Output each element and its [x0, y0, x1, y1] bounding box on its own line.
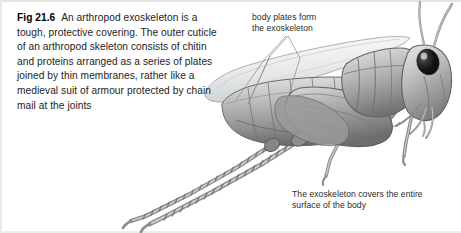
scan-edge-left	[0, 0, 2, 233]
hind-femur-far	[262, 96, 349, 154]
figure-container: Fig 21.6 An arthropod exoskeleton is a t…	[0, 0, 461, 233]
annotation-body-plates: body plates form the exoskeleton	[252, 12, 362, 35]
abdomen	[222, 77, 400, 146]
forewing	[205, 37, 410, 103]
pronotum-thorax	[342, 48, 422, 117]
figure-caption-text: An arthropod exoskeleton is a tough, pro…	[17, 12, 217, 111]
hind-femur	[285, 87, 392, 149]
figure-caption: Fig 21.6 An arthropod exoskeleton is a t…	[17, 11, 222, 113]
scan-edge-bottom	[0, 231, 461, 233]
figure-number: Fig 21.6	[17, 12, 55, 23]
mouthparts	[396, 104, 433, 138]
antennae	[419, 2, 452, 46]
leader-lines	[236, 36, 300, 104]
hind-tibia-far	[123, 146, 270, 228]
scan-edge-top	[0, 0, 461, 2]
middle-leg	[323, 118, 352, 185]
hind-tibia-near	[141, 140, 300, 232]
foreleg	[403, 104, 425, 165]
head	[396, 45, 452, 138]
annotation-exoskeleton-covers: The exoskeleton covers the entire surfac…	[292, 189, 457, 212]
compound-eye	[414, 47, 442, 78]
